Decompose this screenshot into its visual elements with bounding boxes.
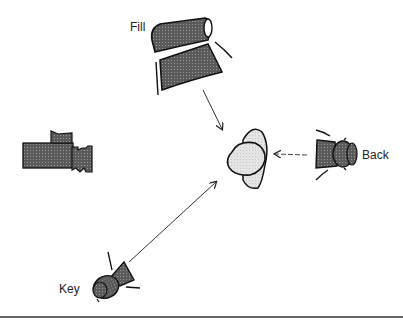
arrow-key-to-subject: [129, 182, 216, 262]
key-label: Key: [59, 282, 80, 296]
arrow-back-to-subject: [275, 154, 307, 155]
key-light-icon: [90, 252, 140, 302]
back-light-icon: [316, 130, 357, 180]
fill-label: Fill: [130, 20, 145, 34]
arrow-fill-to-subject: [203, 90, 222, 129]
back-label: Back: [362, 148, 389, 162]
subject-icon: [228, 129, 267, 188]
camera-icon: [23, 120, 92, 172]
fill-light-icon: [152, 18, 232, 95]
lighting-diagram: [0, 0, 403, 320]
